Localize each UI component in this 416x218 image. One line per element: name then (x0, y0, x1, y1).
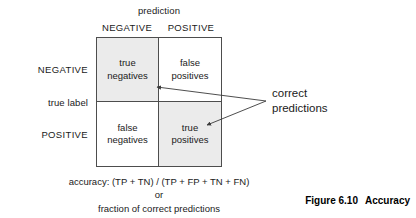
figure-accuracy-confusion-matrix: prediction NEGATIVE POSITIVE true label … (0, 0, 416, 218)
cell-true-negatives-line1: true (119, 57, 135, 69)
figure-caption-title: Accuracy (365, 195, 410, 206)
annotation-correct-predictions: correct predictions (272, 86, 328, 117)
cell-true-negatives: true negatives (97, 38, 159, 102)
prediction-axis-title: prediction (138, 6, 180, 17)
cell-true-positives: true positives (159, 102, 221, 166)
row-header-negative: NEGATIVE (38, 65, 88, 76)
cell-false-negatives-line1: false (117, 122, 137, 134)
cell-true-positives-line2: positives (172, 134, 209, 146)
accuracy-formula: accuracy: (TP + TN) / (TP + FP + TN + FN… (69, 175, 250, 215)
column-header-positive: POSITIVE (168, 23, 215, 34)
figure-caption-number: Figure 6.10 (305, 195, 358, 206)
cell-false-negatives: false negatives (97, 102, 159, 166)
annotation-line2: predictions (272, 101, 328, 116)
cell-true-positives-line1: true (182, 122, 198, 134)
cell-false-positives-line1: false (180, 57, 200, 69)
accuracy-formula-or: or (69, 188, 250, 201)
cell-true-negatives-line2: negatives (107, 70, 148, 82)
true-label-axis-title: true label (48, 98, 88, 109)
cell-false-positives-line2: positives (172, 70, 209, 82)
cell-false-positives: false positives (159, 38, 221, 102)
figure-caption: Figure 6.10Accuracy (305, 195, 410, 206)
column-header-negative: NEGATIVE (102, 23, 152, 34)
annotation-line1: correct (272, 86, 328, 101)
row-header-positive: POSITIVE (41, 130, 88, 141)
cell-false-negatives-line2: negatives (107, 134, 148, 146)
accuracy-formula-description: fraction of correct predictions (69, 202, 250, 215)
confusion-matrix: true negatives false positives false neg… (96, 37, 222, 167)
accuracy-formula-expression: accuracy: (TP + TN) / (TP + FP + TN + FN… (69, 175, 250, 188)
